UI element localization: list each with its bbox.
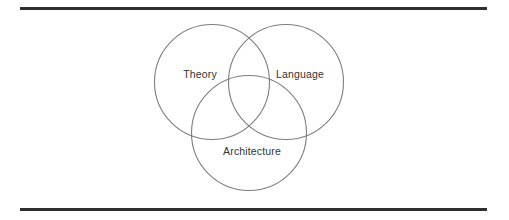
bottom-horizontal-rule — [20, 208, 487, 211]
venn-circle-language — [229, 25, 344, 140]
venn-circle-theory — [155, 25, 270, 140]
venn-label-architecture: Architecture — [223, 146, 281, 157]
venn-label-language: Language — [276, 69, 324, 80]
venn-label-theory: Theory — [183, 69, 217, 80]
venn-diagram: Theory Language Architecture — [0, 0, 509, 220]
figure-root: Theory Language Architecture — [0, 0, 509, 220]
venn-circles-svg — [0, 0, 509, 220]
venn-circle-architecture — [192, 76, 307, 191]
